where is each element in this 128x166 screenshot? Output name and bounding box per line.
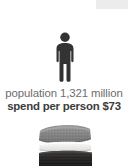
person-pictogram-icon [54,32,76,83]
infographic-panel: population 1,321 million spend per perso… [0,0,128,166]
population-stat-label: population 1,321 million [0,87,128,100]
spend-per-person-stat-label: spend per person $73 [0,100,128,113]
folded-towel-stack-photo [36,122,94,166]
corner-accent-band [96,0,128,9]
statistics-block: population 1,321 million spend per perso… [0,87,128,112]
